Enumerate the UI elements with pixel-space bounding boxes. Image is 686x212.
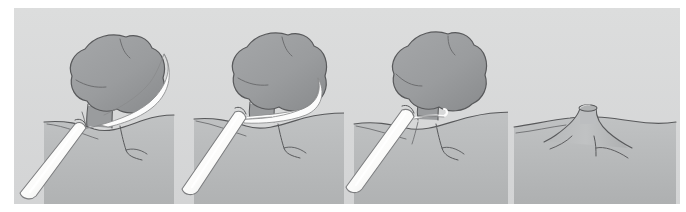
panel-snare-closed-on-stalk: Snare closed at base of stalk	[180, 8, 356, 204]
polypectomy-figure: Snare loop advanced over polyp head	[0, 0, 686, 212]
figure-title: Endoscopic snare polypectomy of a pedunc…	[0, 0, 1, 1]
figure-description: Four-step sequence showing a snare loop …	[0, 0, 1, 1]
panel-snare-loop-opened-over-polyp: Snare loop advanced over polyp head	[14, 8, 190, 204]
stump-cut-surface	[579, 105, 597, 111]
panel-residual-stump: Residual stalk stump after polyp removal	[508, 8, 680, 204]
panel-strip: Snare loop advanced over polyp head	[14, 8, 680, 204]
panel-stalk-transection: Stalk transected by electrocautery	[344, 8, 520, 204]
